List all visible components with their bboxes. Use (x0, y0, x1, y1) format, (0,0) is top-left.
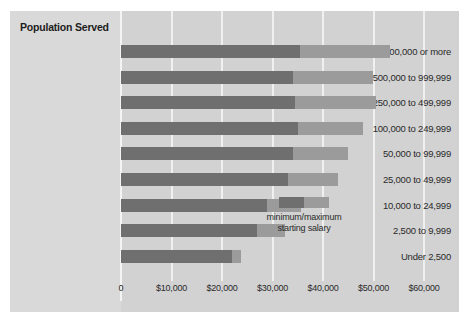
bar-segment-minimum (121, 173, 288, 186)
legend-swatch-maximum (304, 197, 329, 208)
legend-label-line1: minimum/maximum (250, 212, 358, 223)
x-tick-label: $50,000 (358, 283, 389, 293)
x-tick-label: $10,000 (156, 283, 187, 293)
bar-row (121, 96, 376, 109)
bar-segment-maximum (293, 71, 373, 84)
category-label: 500,000 to 999,999 (373, 72, 451, 83)
bar-segment-minimum (121, 45, 300, 58)
bar-row (121, 250, 241, 263)
category-label: 25,000 to 49,999 (383, 174, 451, 185)
x-tick-label: $40,000 (307, 283, 338, 293)
bar-segment-minimum (121, 224, 257, 237)
x-tick-label: $30,000 (257, 283, 288, 293)
bar-segment-minimum (121, 147, 293, 160)
bar-segment-minimum (121, 122, 298, 135)
bar-row (121, 147, 348, 160)
legend-swatch-minimum (279, 197, 304, 208)
chart-title: Population Served (20, 21, 109, 33)
category-label: 250,000 to 499,999 (373, 97, 451, 108)
bar-row (121, 122, 363, 135)
bar-segment-maximum (298, 122, 363, 135)
category-label: 100,000 to 249,999 (373, 123, 451, 134)
bar-segment-maximum (295, 96, 376, 109)
bar-segment-maximum (288, 173, 339, 186)
category-label: 10,000 to 24,999 (383, 200, 451, 211)
category-label-panel (10, 11, 121, 312)
bar-row (121, 45, 390, 58)
category-label: 2,500 to 9,999 (393, 225, 451, 236)
bar-row (121, 173, 338, 186)
bar-segment-minimum (121, 96, 295, 109)
legend-label-line2: starting salary (250, 223, 358, 234)
x-tick-label: $20,000 (206, 283, 237, 293)
bar-segment-maximum (300, 45, 390, 58)
bar-segment-maximum (293, 147, 349, 160)
category-label: Under 2,500 (401, 251, 451, 262)
bar-segment-minimum (121, 199, 267, 212)
bar-row (121, 71, 373, 84)
bar-segment-minimum (121, 250, 232, 263)
chart-legend: minimum/maximum starting salary (250, 197, 358, 234)
chart-container: Population Served 1,000,000 or more500,0… (10, 11, 459, 312)
x-tick-label: $60,000 (408, 283, 439, 293)
x-tick-label: 0 (119, 283, 124, 293)
legend-swatch (279, 197, 329, 208)
category-label: 50,000 to 99,999 (383, 148, 451, 159)
bar-segment-maximum (232, 250, 241, 263)
bar-segment-minimum (121, 71, 293, 84)
